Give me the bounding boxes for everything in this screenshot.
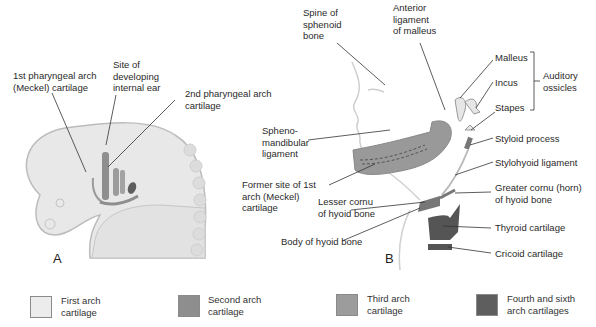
legend-swatch-second — [178, 295, 200, 317]
label-thyroid: Thyroid cartilage — [495, 222, 565, 234]
ossicles-shape — [455, 98, 480, 130]
label-second-arch: 2nd pharyngeal arch cartilage — [185, 88, 272, 111]
label-cricoid: Cricoid cartilage — [495, 248, 563, 260]
panel-letter-b: B — [385, 251, 394, 266]
label-ant-ligament: Anterior ligament of malleus — [393, 2, 436, 37]
legend-label-second: Second arch cartilage — [208, 294, 261, 318]
label-stapes: Stapes — [495, 102, 525, 114]
label-former-site: Former site of 1st arch (Meckel) cartila… — [242, 179, 316, 214]
label-spheno-mandibular: Spheno- mandibular ligament — [262, 125, 309, 160]
label-greater-cornu: Greater cornu (horn) of hyoid bone — [495, 182, 582, 205]
legend-swatch-third — [336, 294, 358, 316]
label-stylohyoid: Stylohyoid ligament — [495, 157, 577, 169]
label-auditory-ossicles: Auditory ossicles — [543, 70, 578, 93]
label-first-arch: 1st pharyngeal arch (Meckel) cartilage — [13, 70, 96, 93]
label-incus: Incus — [495, 77, 518, 89]
label-inner-ear: Site of developing internal ear — [113, 59, 161, 94]
panel-letter-a: A — [53, 251, 62, 266]
legend-label-first: First arch cartilage — [61, 295, 101, 319]
label-styloid: Styloid process — [495, 133, 559, 145]
label-lesser-cornu: Lesser cornu of hyoid bone — [318, 196, 375, 219]
mandible-shape — [353, 121, 451, 175]
legend-label-fourth-sixth: Fourth and sixth arch cartilages — [507, 293, 575, 317]
embryo-illustration — [26, 123, 206, 258]
label-spine-sphenoid: Spine of sphenoid bone — [303, 7, 342, 42]
label-body-hyoid: Body of hyoid bone — [281, 236, 362, 248]
legend-swatch-first — [30, 296, 52, 318]
label-malleus: Malleus — [495, 52, 528, 64]
legend-label-third: Third arch cartilage — [367, 293, 410, 317]
legend-swatch-fourth-sixth — [476, 294, 498, 316]
